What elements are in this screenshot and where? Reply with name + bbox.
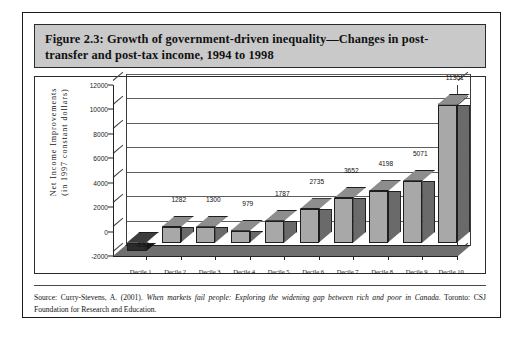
bar-value-label: 11301: [446, 74, 464, 81]
x-axis-tick-mark: [215, 256, 216, 260]
axis-depth-connector: [113, 169, 124, 178]
y-axis-tick-label: 10000: [90, 106, 108, 113]
bar-side-face: [319, 209, 332, 242]
x-axis-tick-mark: [146, 256, 147, 260]
bar-front-face: [334, 198, 353, 243]
y-axis-tick-label: 12000: [90, 82, 108, 89]
bar: [334, 198, 353, 243]
bar-side-face: [388, 191, 401, 242]
bar-value-label: -690: [136, 241, 149, 248]
x-axis-tick-mark: [250, 256, 251, 260]
bar-front-face: [369, 191, 388, 242]
x-axis-tick-mark: [319, 256, 320, 260]
bar-front-face: [231, 231, 250, 243]
bar-top-face: [265, 210, 297, 221]
y-axis-line: [113, 85, 114, 256]
gridline: [126, 98, 471, 99]
bar: [196, 227, 215, 243]
x-axis-tick-label: Decile 9: [406, 268, 428, 275]
figure-title-line-2: transfer and post-tax income, 1994 to 19…: [45, 47, 475, 63]
y-axis-label-line-2: (in 1997 constant dollars): [59, 72, 70, 212]
back-wall-left-edge: [126, 74, 127, 245]
bar-front-face: [265, 221, 284, 243]
x-axis-tick-label: Decile 4: [233, 268, 255, 275]
bar-value-label: 1787: [275, 190, 290, 197]
x-axis-tick-label: Decile 5: [268, 268, 290, 275]
bar-value-label: 3652: [344, 167, 359, 174]
chart-panel: Net Income Improvements (in 1997 constan…: [34, 76, 486, 274]
x-axis-tick-mark: [422, 256, 423, 260]
bar: [403, 181, 422, 243]
bar: [300, 209, 319, 242]
x-axis-tick-label: Decile 7: [337, 268, 359, 275]
y-axis-tick-label: 8000: [93, 130, 108, 137]
x-axis-tick-mark: [353, 256, 354, 260]
x-axis-tick-label: Decile 8: [371, 268, 393, 275]
bar-front-face: [403, 181, 422, 243]
axis-depth-connector: [113, 218, 124, 227]
figure-title-line-1: Figure 2.3: Growth of government-driven …: [45, 31, 475, 47]
bar-side-face: [215, 227, 228, 243]
axis-depth-connector: [113, 193, 124, 202]
x-axis-line: [113, 256, 458, 257]
bar-value-label: 1300: [206, 196, 221, 203]
bar-side-face: [457, 105, 470, 243]
axis-depth-connector: [113, 120, 124, 129]
bar-side-face: [181, 227, 194, 243]
figure-title-box: Figure 2.3: Growth of government-driven …: [34, 24, 486, 68]
y-axis-label-line-1: Net Income Improvements: [48, 72, 59, 212]
bar: [438, 105, 457, 243]
gridline: [126, 147, 471, 148]
bar-front-face: [438, 105, 457, 243]
bar-front-face: [196, 227, 215, 243]
source-prefix: Source: Curry-Stevens, A. (2001).: [34, 293, 146, 302]
y-axis-tick-label: 4000: [93, 179, 108, 186]
source-title: When markets fail people: Exploring the …: [146, 293, 438, 302]
bar: [369, 191, 388, 242]
x-axis-tick-mark: [181, 256, 182, 260]
figure-frame: Figure 2.3: Growth of government-driven …: [22, 12, 501, 318]
y-axis-tick-label: 6000: [93, 155, 108, 162]
x-axis-tick-mark: [457, 256, 458, 260]
y-axis-tick-label: 2000: [93, 204, 108, 211]
bar-value-label: 979: [242, 200, 253, 207]
y-axis-tick-label: -2000: [91, 253, 108, 260]
bar-value-label: 4198: [378, 160, 393, 167]
x-axis-tick-mark: [284, 256, 285, 260]
bar-top-face: [369, 180, 401, 191]
bar-value-label: 5071: [413, 150, 428, 157]
gridline: [126, 123, 471, 124]
bar-front-face: [300, 209, 319, 242]
x-axis-tick-label: Decile 2: [164, 268, 186, 275]
bar-side-face: [250, 231, 263, 243]
bar: [265, 221, 284, 243]
source-citation: Source: Curry-Stevens, A. (2001). When m…: [34, 292, 486, 315]
back-wall-right-edge: [470, 74, 471, 245]
x-axis-tick-label: Decile 3: [199, 268, 221, 275]
bar: [162, 227, 181, 243]
x-axis-tick-mark: [388, 256, 389, 260]
bar-side-face: [284, 221, 297, 243]
x-axis-tick-label: Decile 1: [130, 268, 152, 275]
y-axis-label: Net Income Improvements (in 1997 constan…: [48, 72, 70, 212]
axis-depth-connector: [113, 96, 124, 105]
bar: [231, 231, 250, 243]
bar-top-face: [300, 198, 332, 209]
bar-side-face: [422, 181, 435, 243]
gridline: [126, 74, 471, 75]
bar-front-face: [162, 227, 181, 243]
bar-value-label: 2735: [309, 178, 324, 185]
source-divider: [34, 285, 486, 286]
axis-depth-connector: [113, 71, 124, 80]
plot-area: -2000020004000600080001000012000-690Deci…: [113, 85, 471, 267]
axis-depth-connector: [113, 145, 124, 154]
bar-value-label: 1282: [171, 196, 186, 203]
x-axis-tick-label: Decile 10: [439, 268, 464, 275]
x-axis-tick-label: Decile 6: [302, 268, 324, 275]
bar-side-face: [353, 198, 366, 243]
